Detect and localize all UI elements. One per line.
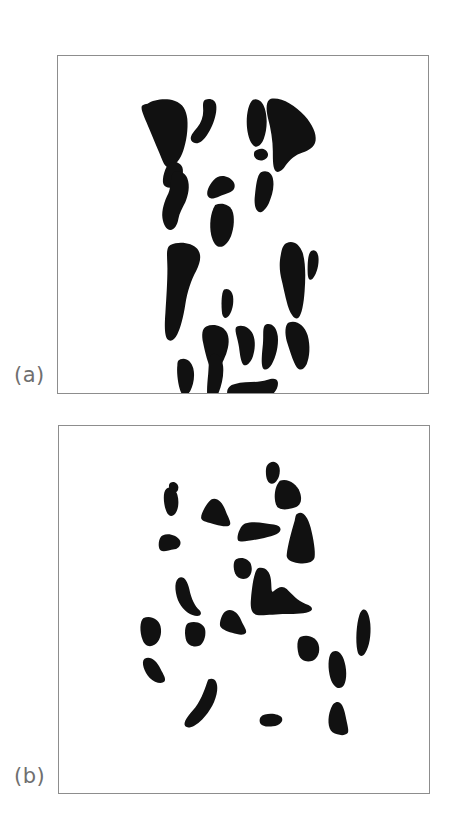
blob-shoulder-right-hook	[308, 250, 319, 279]
blob-fragment-top-right-small	[266, 462, 280, 484]
blob-fragment-center-small-wedge	[234, 558, 252, 579]
blob-paw-shadow-bottom	[227, 379, 278, 393]
panel-b-scrambled-fragments	[58, 425, 430, 794]
blob-leg-front-center-zig	[236, 326, 255, 366]
blob-fragment-center-bar	[238, 522, 281, 541]
blob-collar-center-left	[207, 176, 235, 198]
blob-head-right-ear-top	[247, 99, 267, 146]
blob-paw-center-curve	[207, 354, 223, 393]
blob-body-left-long-stripe	[165, 243, 200, 341]
blob-fragment-right-cone	[287, 513, 315, 564]
panel-a-blob-canvas	[58, 56, 428, 393]
blob-head-right-ear-large	[267, 98, 316, 171]
panel-a-dalmatian-figure	[57, 55, 429, 394]
figure-root: (a) (b)	[0, 0, 459, 817]
blob-paw-left-blob	[177, 359, 194, 393]
blob-chest-center-triangle	[210, 204, 234, 247]
blob-head-forehead-stripe	[191, 99, 217, 143]
blob-leg-front-right-curve	[262, 324, 278, 370]
blob-body-right-long-stripe	[280, 242, 306, 319]
panel-b-caption: (b)	[14, 766, 45, 787]
panel-a-caption: (a)	[14, 365, 45, 386]
blob-fragment-right-square	[297, 636, 319, 662]
panel-b-blob-canvas	[59, 426, 429, 793]
blob-neck-right-blob	[255, 171, 274, 212]
blob-fragment-mid-left-hook	[159, 534, 181, 551]
blob-fragment-lower-left-triangle	[143, 658, 165, 683]
blob-fragment-right-mid-wedge	[329, 651, 347, 688]
blob-fragment-left-mid-square	[185, 622, 205, 647]
blob-fragment-center-arrow	[220, 610, 246, 635]
blob-fragment-bottom-right-spike	[328, 702, 348, 735]
blob-fragment-bottom-small-bar	[260, 714, 283, 727]
blob-fragment-lower-left-curve	[185, 679, 218, 728]
blob-hind-leg-right-long	[285, 322, 309, 370]
blob-fragment-left-round	[140, 617, 161, 646]
blob-fragment-upper-left-triangle	[201, 499, 230, 527]
blob-head-left-ear-mass	[142, 99, 188, 167]
blob-fragment-mid-left-crescent	[175, 577, 201, 616]
blob-belly-small-wedge	[222, 289, 234, 318]
blob-fragment-center-tree	[251, 568, 312, 615]
blob-fragment-right-sliver	[356, 610, 370, 656]
blob-cheek-dot	[254, 149, 268, 161]
blob-fragment-top-right-chunk	[275, 480, 301, 510]
